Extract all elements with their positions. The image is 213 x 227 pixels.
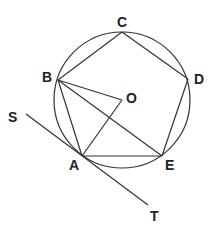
label-O: O [126, 90, 137, 106]
geometry-diagram: ABCDEOST [0, 0, 213, 227]
segment-BE [58, 80, 162, 156]
label-A: A [69, 157, 79, 173]
label-E: E [165, 157, 174, 173]
label-S: S [8, 109, 17, 125]
segment-ST [26, 114, 148, 205]
label-C: C [117, 14, 127, 30]
segment-BC [58, 32, 122, 80]
label-T: T [150, 208, 159, 224]
label-B: B [42, 69, 52, 85]
segment-OA [82, 100, 122, 156]
label-D: D [194, 71, 204, 87]
segment-BO [58, 80, 122, 100]
segments [26, 32, 188, 205]
segment-DE [162, 79, 188, 156]
segment-CD [122, 32, 188, 79]
